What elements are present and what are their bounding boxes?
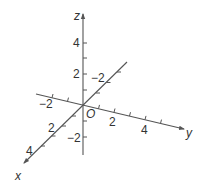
z-tick-2: 2 [73, 67, 80, 81]
axes-diagram: z y x O 4 2 −2 −2 2 4 −2 2 4 [0, 0, 198, 186]
z-axis-ticks [83, 43, 87, 137]
x-axis-label: x [14, 169, 22, 183]
y-tick-4: 4 [141, 123, 148, 137]
x-tick-2: 2 [48, 121, 55, 135]
z-axis-label: z [73, 9, 80, 23]
y-axis-label: y [185, 126, 193, 140]
z-tick-neg2: −2 [67, 131, 81, 145]
z-tick-4: 4 [73, 36, 80, 50]
y-tick-2: 2 [109, 115, 116, 129]
y-tick-neg2: −2 [39, 97, 53, 111]
x-tick-neg2: −2 [91, 71, 105, 85]
origin-label: O [86, 107, 95, 121]
x-tick-4: 4 [26, 144, 33, 158]
